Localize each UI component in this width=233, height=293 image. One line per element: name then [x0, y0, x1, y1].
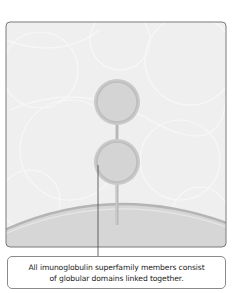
caption-line-2: of globular domains linked together.: [50, 273, 184, 284]
globular-domain-top: [94, 79, 140, 125]
globular-domain-bottom: [94, 139, 140, 185]
caption-line-1: All imunoglobulin superfamily members co…: [28, 262, 204, 273]
immunoglobulin-diagram: [0, 0, 233, 293]
caption-box: All imunoglobulin superfamily members co…: [7, 256, 226, 289]
